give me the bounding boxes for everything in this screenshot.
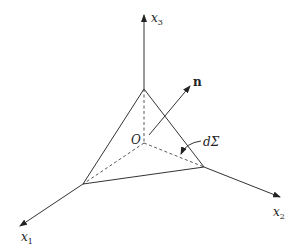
tetrahedron-diagram: x3 x1 x2 O n dΣ <box>0 0 296 252</box>
normal-label: n <box>193 75 202 89</box>
diagram-svg: x3 x1 x2 O n dΣ <box>0 0 296 252</box>
x1-axis <box>20 184 83 226</box>
normal-vector <box>149 86 190 135</box>
inclined-face-edges <box>83 89 204 184</box>
origin-label: O <box>131 133 141 147</box>
surface-label: dΣ <box>203 135 220 149</box>
surface-pointer-arrow <box>181 141 201 154</box>
x3-label: x3 <box>151 11 163 27</box>
x1-label: x1 <box>21 230 33 246</box>
x2-label: x2 <box>273 205 285 221</box>
x2-axis <box>204 167 280 197</box>
